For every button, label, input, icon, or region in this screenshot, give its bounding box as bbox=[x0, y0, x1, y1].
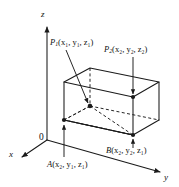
diagonal-p1-to-a bbox=[64, 106, 90, 120]
point-label-b-coords: (x₂, y₂, z₁) bbox=[111, 145, 146, 155]
hidden-edge-bottom-back-left bbox=[64, 106, 90, 120]
leader-lines bbox=[64, 50, 133, 157]
origin-label: 0 bbox=[39, 133, 44, 143]
vertex-dot-p2 bbox=[131, 95, 135, 99]
point-label-a: A(x₂, y₁, z₁) bbox=[47, 160, 88, 169]
y-axis-label: y bbox=[164, 173, 168, 182]
box-edge-bottom-right-front bbox=[133, 120, 159, 135]
vertex-dots bbox=[62, 95, 135, 137]
x-axis-label: x bbox=[9, 150, 13, 159]
point-label-p1-sub: 1 bbox=[55, 41, 58, 47]
box-hidden-edges bbox=[64, 68, 159, 135]
point-label-a-coords: (x₂, y₁, z₁) bbox=[52, 159, 87, 169]
point-label-p2: P2(x₂, y₂, z₂) bbox=[104, 45, 147, 54]
vertex-dot-b bbox=[131, 133, 135, 137]
box-solid-edges bbox=[64, 68, 159, 135]
box-diagram-svg bbox=[0, 0, 179, 187]
point-label-b: B(x₂, y₂, z₁) bbox=[106, 146, 147, 155]
box-top-face bbox=[64, 68, 159, 97]
x-axis bbox=[22, 140, 47, 157]
leader-line-p1 bbox=[66, 50, 88, 103]
point-label-p2-coords: (x₂, y₂, z₂) bbox=[112, 44, 147, 54]
vertex-dot-a bbox=[62, 118, 66, 122]
point-label-p1: P1(x₁, y₁, z₁) bbox=[50, 38, 93, 47]
point-label-p2-sub: 2 bbox=[109, 48, 112, 54]
point-label-p1-coords: (x₁, y₁, z₁) bbox=[58, 37, 93, 47]
vertex-dot-p1 bbox=[88, 104, 93, 109]
figure-container: z y x 0 P1(x₁, y₁, z₁) P2(x₂, y₂, z₂) A(… bbox=[0, 0, 179, 187]
z-axis-label: z bbox=[41, 10, 45, 19]
